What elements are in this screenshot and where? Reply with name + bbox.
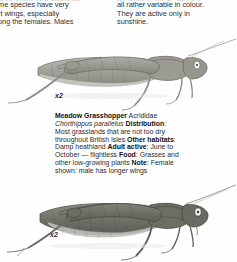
field-label-other-habitats: Other habitats: [127, 136, 174, 143]
field-sep-0: :: [164, 120, 166, 127]
species-info-block: Meadow Grasshopper Acrididae Chorthippus…: [55, 112, 179, 175]
right-column-line-3: sunshine.: [117, 18, 235, 27]
grasshopper-illustration-light: [0, 30, 237, 112]
field-sep-2: :: [147, 143, 149, 150]
magnification-label-bottom: x2: [50, 231, 58, 238]
species-common-name: Meadow Grasshopper: [55, 112, 127, 119]
body-text-left-column: species and their wings are ome species …: [0, 0, 112, 27]
clipped-text-line-right: are longer. These species: [117, 0, 235, 1]
clipped-text-line-left: species and their wings are: [0, 0, 112, 1]
field-label-food: Food: [119, 151, 136, 158]
body-text-right-column: are longer. These species all rather var…: [117, 0, 235, 27]
grasshopper-illustration-dark: [0, 178, 237, 262]
species-scientific-name: Chorthippus parallelus: [55, 120, 124, 127]
magnification-label-top: x2: [55, 92, 63, 99]
field-guide-page: species and their wings are ome species …: [0, 0, 237, 262]
species-family: Acrididae: [129, 112, 158, 119]
field-label-adult-active: Adult active: [108, 143, 147, 150]
left-column-line-3: nong the females. Males: [0, 18, 112, 27]
field-label-note: Note: [132, 159, 147, 166]
field-sep-4: :: [147, 159, 149, 166]
field-label-distribution: Distribution: [126, 120, 165, 127]
field-sep-3: :: [136, 151, 138, 158]
field-value-other-habitats: Damp heathland: [55, 143, 106, 150]
field-sep-1: :: [174, 136, 176, 143]
